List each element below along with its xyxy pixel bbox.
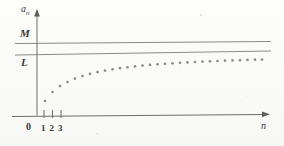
limit-line-L (15, 51, 271, 55)
sequence-dot (74, 77, 77, 80)
sequence-dot (119, 67, 122, 70)
y-axis-arrow-icon (34, 9, 40, 17)
sequence-dot (224, 59, 227, 62)
y-axis-label: an (21, 4, 30, 17)
sequence-dot (141, 64, 144, 67)
origin-label: 0 (26, 122, 31, 132)
sequence-dot (134, 65, 137, 68)
sequence-dot (179, 61, 182, 64)
sequence-dot (194, 61, 197, 64)
sequence-dot (51, 91, 54, 94)
sequence-dot (66, 81, 69, 84)
sequence-dot (149, 64, 152, 67)
x-axis-label: n (261, 121, 266, 131)
tick-label-2: 2 (50, 124, 55, 133)
sequence-dot (111, 68, 114, 71)
sequence-dot (59, 85, 62, 88)
sequence-dot (186, 61, 189, 64)
sequence-dot (156, 63, 159, 66)
sequence-dot (96, 71, 99, 74)
sequence-dot (254, 58, 257, 61)
x-axis (12, 115, 263, 117)
sequence-dot (231, 59, 234, 62)
tick-label-3: 3 (58, 124, 63, 133)
upper-bound-label-M: M (20, 28, 30, 39)
sequence-dot (239, 59, 242, 62)
sequence-convergence-figure: an M L 0 n 1 2 3 (0, 0, 284, 146)
sequence-dot (89, 73, 92, 76)
upper-bound-line-M (15, 42, 271, 44)
sequence-dot (201, 60, 204, 63)
sequence-dot (171, 62, 174, 65)
x-axis-arrow-icon (262, 111, 270, 117)
tick-label-1: 1 (41, 124, 46, 133)
limit-label-L: L (21, 57, 28, 68)
sequence-dot (44, 100, 47, 103)
sequence-dot (81, 75, 84, 78)
sequence-dot (246, 59, 249, 62)
sequence-dot (164, 62, 167, 65)
sequence-dot (104, 69, 107, 72)
sequence-dot (261, 58, 264, 61)
sequence-dot (126, 66, 129, 69)
sequence-dot (209, 60, 212, 63)
sequence-dot (216, 60, 219, 63)
y-axis-label-subscript: n (26, 9, 30, 17)
sequence-points (44, 58, 264, 102)
